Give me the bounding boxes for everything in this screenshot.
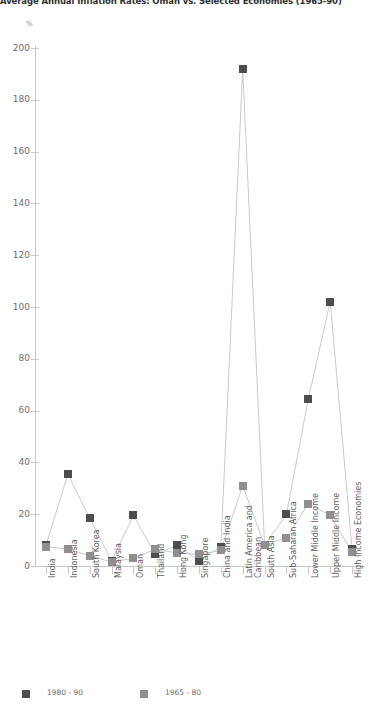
x-axis-label: Upper Middle Income [333, 493, 342, 578]
data-point-marker [86, 514, 94, 522]
data-point-marker [42, 543, 50, 551]
x-axis-label: Hong Kong [180, 535, 189, 579]
x-axis-label: Malaysia [115, 543, 124, 578]
x-axis-label: Oman [137, 554, 146, 578]
chart-plot-area: % 020406080100120140160180200 IndiaIndon… [0, 0, 385, 710]
data-point-marker [239, 65, 247, 73]
legend-label: 1980 - 90 [47, 688, 83, 697]
data-point-marker [239, 482, 247, 490]
x-axis-label: South Asia [268, 535, 277, 578]
legend-swatch [140, 690, 148, 698]
legend-label: 1965 - 80 [165, 688, 201, 697]
x-axis-label: Lower Middle Income [312, 493, 321, 578]
x-axis-label: South Korea [93, 530, 102, 578]
x-axis-label: Singapore [202, 538, 211, 578]
data-point-marker [304, 395, 312, 403]
x-axis-label: Sub-Saharan Africa [290, 501, 299, 578]
x-axis-label: Caribbean [255, 537, 264, 578]
x-axis-label: High Income Economies [355, 482, 364, 578]
data-point-marker [129, 511, 137, 519]
x-axis-label: China and India [224, 515, 233, 578]
x-axis-label: Thailand [158, 544, 167, 578]
data-point-marker [326, 298, 334, 306]
series-lines [0, 0, 385, 710]
data-point-marker [64, 470, 72, 478]
legend-swatch [22, 690, 30, 698]
x-axis-label: India [49, 558, 58, 578]
chart-legend: 1980 - 901965 - 80 [0, 686, 385, 706]
x-axis-label: Indonesia [71, 539, 80, 578]
series-line [46, 69, 352, 561]
